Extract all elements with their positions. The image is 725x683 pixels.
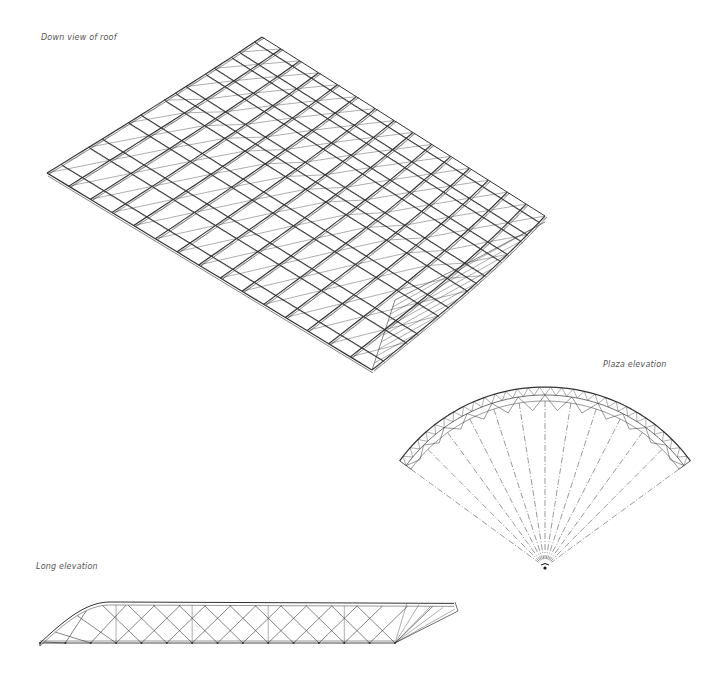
long-elevation-drawing xyxy=(39,602,458,646)
plaza-radial-line xyxy=(448,433,541,561)
long-diagonal xyxy=(357,606,395,643)
long-node xyxy=(166,642,168,644)
long-node xyxy=(343,642,345,644)
plaza-radial-line xyxy=(551,469,679,562)
roof-arch-rib xyxy=(47,37,262,173)
down-view-roof-drawing xyxy=(47,37,547,373)
long-node xyxy=(39,642,41,644)
long-node xyxy=(293,642,295,644)
long-node xyxy=(140,642,142,644)
long-diagonal xyxy=(55,632,90,643)
long-diagonal xyxy=(370,606,408,643)
long-right-end xyxy=(395,602,458,643)
roof-back-edge xyxy=(372,222,545,370)
plaza-radial-line xyxy=(428,449,539,561)
plaza-radial-line xyxy=(411,469,539,562)
roof-back-web xyxy=(381,299,458,342)
plaza-radial-line xyxy=(519,403,544,559)
long-node xyxy=(267,642,269,644)
roof-arch-rib xyxy=(69,49,281,186)
roof-diagonal xyxy=(365,192,410,200)
long-diagonal xyxy=(306,606,344,643)
plaza-radial-line xyxy=(549,419,621,560)
plaza-radial-line xyxy=(494,409,543,559)
long-node xyxy=(242,642,244,644)
long-node xyxy=(217,642,219,644)
plaza-radial-line xyxy=(550,433,643,561)
plaza-radial-line xyxy=(547,409,596,559)
long-node xyxy=(115,642,117,644)
plaza-radial-line xyxy=(546,403,571,559)
long-node xyxy=(318,642,320,644)
plaza-support-arc xyxy=(541,564,549,566)
long-diagonal xyxy=(268,606,306,643)
roof-diagonal xyxy=(354,121,394,126)
long-node xyxy=(369,642,371,644)
drawing-canvas xyxy=(0,0,725,683)
long-diagonal xyxy=(319,606,357,643)
long-diagonal xyxy=(77,616,116,643)
plaza-radial-line xyxy=(470,419,542,560)
plaza-support-point xyxy=(543,566,546,569)
long-node xyxy=(90,642,92,644)
long-diagonal xyxy=(332,606,370,643)
long-node xyxy=(64,642,66,644)
plaza-elevation-drawing xyxy=(400,387,691,570)
long-node xyxy=(191,642,193,644)
plaza-arch-end-left xyxy=(400,461,411,469)
plaza-radial-line xyxy=(551,449,662,561)
plaza-arch-end-right xyxy=(679,461,690,469)
long-end-web xyxy=(395,608,443,644)
roof-diagonal xyxy=(385,205,429,213)
long-diagonal xyxy=(294,606,332,643)
